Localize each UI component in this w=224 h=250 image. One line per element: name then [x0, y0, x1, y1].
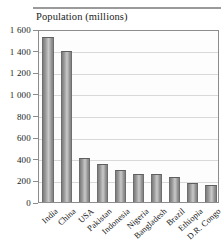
- bar: [133, 174, 144, 202]
- y-tick-label: 800: [17, 112, 31, 122]
- bar: [79, 158, 90, 202]
- title-rule: [33, 7, 221, 9]
- bar: [187, 183, 198, 202]
- chart-title: Population (millions): [36, 11, 128, 22]
- chart-figure: Population (millions) 02004006008001 000…: [0, 0, 224, 250]
- bar: [97, 164, 108, 202]
- bar: [61, 51, 72, 202]
- x-tick-label: China: [56, 206, 78, 227]
- x-axis: IndiaChinaUSAPakistanIndonesiaNigeriaBan…: [0, 203, 224, 250]
- y-tick-label: 400: [17, 155, 31, 165]
- y-tick-label: 1 400: [10, 47, 31, 57]
- plot-area: [38, 30, 219, 203]
- y-tick-label: 1 200: [10, 68, 31, 78]
- y-tick-label: 1 000: [10, 90, 31, 100]
- x-tick-label: India: [40, 206, 60, 225]
- y-tick-label: 600: [17, 133, 31, 143]
- bar: [169, 177, 180, 202]
- bars-layer: [39, 31, 218, 202]
- y-tick-label: 1 600: [10, 25, 31, 35]
- bar: [205, 185, 216, 202]
- bar: [151, 174, 162, 202]
- y-tick-label: 200: [17, 176, 31, 186]
- bar: [115, 170, 126, 202]
- bar: [42, 37, 53, 202]
